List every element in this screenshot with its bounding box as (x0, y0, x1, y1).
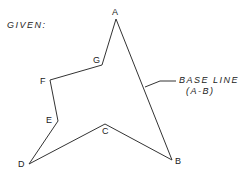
vertex-label-f: F (40, 77, 46, 86)
vertex-label-c: C (102, 127, 109, 136)
vertex-label-b: B (175, 157, 181, 166)
vertex-label-g: G (93, 56, 100, 65)
vertex-label-e: E (46, 116, 52, 125)
base-line-annotation-sub: (A-B) (186, 87, 215, 96)
vertex-label-d: D (18, 160, 25, 169)
base-line-annotation: BASE LINE (179, 76, 239, 85)
polygon-outline (29, 19, 172, 164)
vertex-label-a: A (112, 8, 118, 17)
given-title: GIVEN: (7, 21, 47, 30)
base-line-leader (145, 81, 176, 87)
